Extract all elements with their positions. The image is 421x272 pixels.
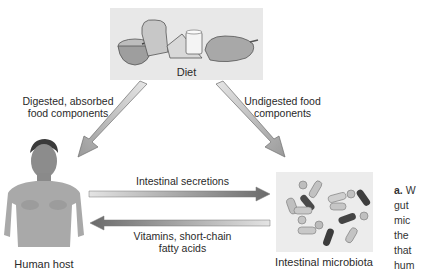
- label-digested: Digested, absorbed food components: [18, 95, 118, 119]
- label-undigested: Undigested food components: [240, 95, 325, 119]
- bacteria-illustration: [276, 172, 373, 252]
- label-intestinal-secretions: Intestinal secretions: [110, 175, 255, 187]
- microbiota-image-box: [276, 172, 373, 252]
- arrow-diet-to-microbiota: [216, 81, 285, 157]
- label-vitamins: Vitamins, short-chain fatty acids: [110, 230, 255, 254]
- figure-caption: a. W gut mic the that hum: [394, 183, 421, 272]
- microbiota-label: Intestinal microbiota: [268, 256, 380, 268]
- arrow-host-to-microbiota: [89, 187, 270, 201]
- arrow-microbiota-to-host: [90, 216, 270, 230]
- human-host-label: Human host: [0, 258, 88, 270]
- caption-prefix: a.: [394, 184, 403, 196]
- human-figure: [0, 135, 90, 260]
